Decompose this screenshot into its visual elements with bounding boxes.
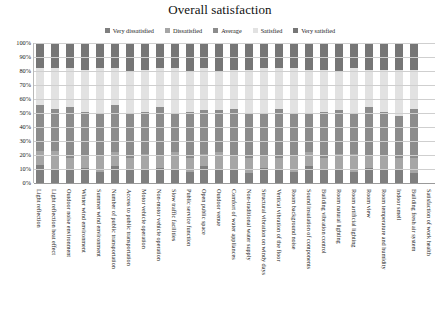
bar-segment — [66, 68, 74, 107]
x-axis-label: Outdoor venue — [216, 189, 222, 226]
gridline — [34, 43, 435, 44]
bar-segment — [365, 107, 373, 155]
bar-segment — [410, 109, 418, 158]
legend-item[interactable]: Very dissatisfied — [105, 27, 154, 34]
x-axis-label-cell: Satisfaction of work health — [425, 189, 433, 309]
x-axis-label-cell: Motor vehicle operation — [140, 189, 148, 309]
bar-segment — [215, 72, 223, 110]
gridline — [34, 141, 435, 142]
x-axis-label: Light reflection — [36, 189, 42, 228]
x-axis-label: Room view — [366, 189, 372, 218]
x-axis-label: Comfort of water appliances — [231, 189, 237, 260]
bar-segment — [186, 71, 194, 112]
x-axis-label: Sound insulation of components — [306, 189, 312, 269]
legend-item[interactable]: Average — [213, 27, 242, 34]
bar-segment — [36, 43, 44, 68]
x-axis-label: Light reflection heat effect — [51, 189, 57, 255]
legend-swatch-icon — [293, 28, 298, 33]
bar-segment — [200, 110, 208, 153]
bar-segment — [245, 173, 253, 183]
legend-item[interactable]: Dissatisfied — [165, 27, 202, 34]
legend-item[interactable]: Very satisfied — [293, 27, 335, 34]
bar-segment — [380, 170, 388, 183]
y-axis: 100%90%80%70%60%50%40%30%20%10%0% — [0, 43, 33, 183]
bar-segment — [36, 165, 44, 183]
y-axis-tick: 10% — [19, 166, 31, 172]
bar-segment — [335, 71, 343, 110]
x-axis-label: Summer wind environment — [96, 189, 102, 257]
x-axis-label: Non-traditional water supply — [246, 189, 252, 260]
bar-segment — [215, 169, 223, 183]
bar-segment — [290, 68, 298, 113]
x-axis-label-cell: Room temperature and humidity — [380, 189, 388, 309]
x-axis-label-cell: Room background noise — [290, 189, 298, 309]
x-axis-label-cell: Number of public transportation — [110, 189, 118, 309]
bar-segment — [245, 158, 253, 173]
x-axis-label: Slow traffic facilities — [171, 189, 177, 241]
legend-item[interactable]: Satisfied — [253, 27, 283, 34]
bar-segment — [365, 155, 373, 168]
y-axis-tick: 60% — [19, 96, 31, 102]
gridline — [34, 85, 435, 86]
bar-segment — [156, 107, 164, 156]
x-axis-label-cell: Room view — [365, 189, 373, 309]
gridline — [34, 113, 435, 114]
y-axis-tick: 80% — [19, 68, 31, 74]
bar-segment — [335, 110, 343, 153]
bar-segment — [215, 110, 223, 152]
x-axis-label-cell: Comfort of water appliances — [230, 189, 238, 309]
x-axis-label: Indoor smell — [396, 189, 402, 220]
x-axis-label: Room artificial lighting — [351, 189, 357, 247]
bar-segment — [260, 43, 268, 68]
bar-segment — [365, 70, 373, 108]
bar-segment — [126, 114, 134, 157]
bar-segment — [141, 112, 149, 154]
bar-segment — [335, 169, 343, 183]
gridline — [34, 169, 435, 170]
bar-segment — [350, 172, 358, 183]
x-axis-label: Room natural lighting — [336, 189, 342, 244]
x-axis-label: Access to public transportation — [126, 189, 132, 266]
bar-segment — [51, 169, 59, 183]
bar-segment — [171, 170, 179, 183]
bar-segment — [305, 113, 313, 152]
bar-segment — [51, 151, 59, 169]
x-axis-label: Outdoor noise environment — [66, 189, 72, 257]
x-axis-label: Motor vehicle operation — [141, 189, 147, 249]
chart-page: Overall satisfaction Very dissatisfiedDi… — [0, 0, 440, 312]
bar-segment — [275, 158, 283, 169]
legend-label: Average — [221, 27, 242, 34]
x-axis-label-cell: Room artificial lighting — [350, 189, 358, 309]
bar-segment — [245, 70, 253, 113]
bar-segment — [275, 109, 283, 158]
x-axis-label: Number of public transportation — [111, 189, 117, 269]
page-title: Overall satisfaction — [0, 2, 440, 18]
x-axis-label-cell: Non-motor vehicle operation — [155, 189, 163, 309]
x-axis-labels: Light reflectionLight reflection heat ef… — [33, 189, 435, 309]
bar-segment — [186, 112, 194, 158]
bar-segment — [96, 43, 104, 68]
x-axis-label-cell: Indoor smell — [395, 189, 403, 309]
legend-swatch-icon — [105, 28, 110, 33]
bar-segment — [171, 113, 179, 152]
bar-segment — [230, 70, 238, 109]
bar-segment — [410, 70, 418, 109]
bar-segment — [320, 70, 328, 112]
gridline — [34, 57, 435, 58]
x-axis-label-cell: Summer wind environment — [95, 189, 103, 309]
gridline — [34, 99, 435, 100]
x-axis-label-cell: Vertical vibration of the floor — [275, 189, 283, 309]
y-axis-tick: 100% — [16, 40, 31, 46]
bar-segment — [200, 68, 208, 110]
bar-segment — [111, 43, 119, 68]
x-axis-label-cell: Light reflection heat effect — [50, 189, 58, 309]
bar-segment — [81, 112, 89, 157]
plot-wrapper: 100%90%80%70%60%50%40%30%20%10%0% — [0, 43, 440, 189]
bar-segment — [66, 170, 74, 183]
bar-segment — [290, 172, 298, 183]
x-axis-label: Winter wind environment — [81, 189, 87, 253]
x-axis-label: Structural vibration on windy days — [261, 189, 267, 275]
gridline — [34, 71, 435, 72]
y-axis-tick: 40% — [19, 124, 31, 130]
bar-segment — [410, 158, 418, 173]
